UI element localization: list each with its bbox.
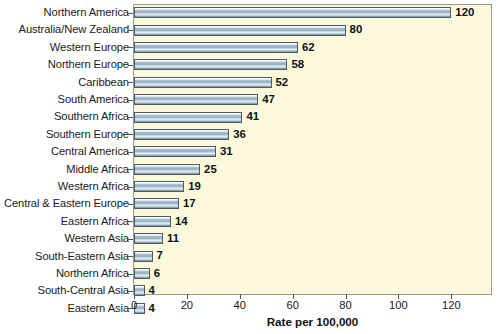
- bar: [134, 129, 229, 140]
- bar-value-label: 80: [350, 24, 363, 35]
- bar-and-value: 120: [134, 7, 474, 19]
- y-axis-tick: [128, 82, 133, 83]
- y-axis-tick: [128, 221, 133, 222]
- bar-row: Western Asia11: [0, 230, 504, 247]
- bar-chart: Northern America120Australia/New Zealand…: [0, 0, 504, 334]
- y-axis-tick: [128, 204, 133, 205]
- y-axis-tick: [128, 291, 133, 292]
- bar: [134, 198, 179, 209]
- bar-value-label: 62: [302, 42, 315, 53]
- bar: [134, 164, 200, 175]
- category-label: Western Asia: [0, 233, 129, 244]
- bar-value-label: 58: [291, 59, 304, 70]
- bar-row: Southern Africa41: [0, 108, 504, 125]
- y-axis-tick: [128, 47, 133, 48]
- bar-value-label: 36: [233, 129, 246, 140]
- bar: [134, 59, 287, 70]
- x-axis-tick-label: 40: [234, 300, 246, 311]
- bar: [134, 77, 272, 88]
- category-label: Southern Europe: [0, 129, 129, 140]
- bar-value-label: 11: [167, 233, 179, 244]
- category-label: South America: [0, 94, 129, 105]
- bar-value-label: 17: [183, 198, 196, 209]
- y-axis-tick: [128, 256, 133, 257]
- bar-value-label: 7: [157, 250, 163, 261]
- category-label: Northern Africa: [0, 268, 129, 279]
- bar: [134, 268, 150, 279]
- y-axis-tick: [128, 169, 133, 170]
- y-axis-tick: [128, 30, 133, 31]
- bar-row: Northern America120: [0, 4, 504, 21]
- bar: [134, 181, 184, 192]
- bar-and-value: 14: [134, 215, 188, 227]
- bar-and-value: 19: [134, 181, 201, 193]
- bar: [134, 25, 346, 36]
- category-label: Central & Eastern Europe: [0, 198, 129, 209]
- y-axis-tick: [128, 117, 133, 118]
- bar-row: Central America31: [0, 143, 504, 160]
- bar-and-value: 41: [134, 111, 259, 123]
- bar-value-label: 120: [455, 7, 474, 18]
- bar-and-value: 25: [134, 163, 217, 175]
- y-axis-tick: [128, 100, 133, 101]
- category-label: Central America: [0, 146, 129, 157]
- bar-value-label: 6: [154, 268, 160, 279]
- bar-value-label: 52: [276, 77, 289, 88]
- bar-and-value: 11: [134, 233, 179, 245]
- bar-row: South America47: [0, 91, 504, 108]
- y-axis-tick: [128, 187, 133, 188]
- bar-row: Southern Europe36: [0, 126, 504, 143]
- category-label: Northern America: [0, 7, 129, 18]
- bar-rows: Northern America120Australia/New Zealand…: [0, 4, 504, 295]
- y-axis-tick: [128, 152, 133, 153]
- bar-row: Australia/New Zealand80: [0, 21, 504, 38]
- y-axis-tick: [128, 65, 133, 66]
- x-axis-tick-label: 120: [442, 300, 461, 311]
- bar-and-value: 36: [134, 128, 246, 140]
- bar-and-value: 47: [134, 94, 275, 106]
- category-label: South-Central Asia: [0, 285, 129, 296]
- bar-value-label: 14: [175, 216, 188, 227]
- bar-and-value: 80: [134, 24, 362, 36]
- bar-value-label: 25: [204, 164, 217, 175]
- bar-value-label: 47: [262, 94, 275, 105]
- x-axis-tick-label: 100: [389, 300, 408, 311]
- x-axis-tick-label: 0: [131, 300, 137, 311]
- bar-row: Central & Eastern Europe17: [0, 195, 504, 212]
- x-axis-tick-label: 60: [286, 300, 298, 311]
- bar-row: Northern Africa6: [0, 265, 504, 282]
- x-axis-title: Rate per 100,000: [133, 316, 492, 328]
- category-label: Western Europe: [0, 42, 129, 53]
- bar-row: Northern Europe58: [0, 56, 504, 73]
- bar-row: Western Africa19: [0, 178, 504, 195]
- bar: [134, 216, 171, 227]
- y-axis-tick: [128, 13, 133, 14]
- bar: [134, 112, 242, 123]
- bar: [134, 251, 153, 262]
- x-axis: 020406080100120: [133, 294, 492, 334]
- bar-row: South-Eastern Asia7: [0, 247, 504, 264]
- bar-row: Eastern Africa14: [0, 213, 504, 230]
- category-label: Australia/New Zealand: [0, 24, 129, 35]
- y-axis-tick: [128, 134, 133, 135]
- bar-row: Western Europe62: [0, 39, 504, 56]
- category-label: South-Eastern Asia: [0, 251, 129, 262]
- bar-row: Caribbean52: [0, 74, 504, 91]
- bar: [134, 146, 216, 157]
- bar-value-label: 19: [188, 181, 201, 192]
- y-axis-tick: [128, 239, 133, 240]
- bar: [134, 42, 298, 53]
- bar-value-label: 41: [246, 111, 259, 122]
- bar-and-value: 58: [134, 59, 304, 71]
- bar: [134, 233, 163, 244]
- bar-row: Middle Africa25: [0, 161, 504, 178]
- bar-and-value: 17: [134, 198, 196, 210]
- bar-and-value: 62: [134, 41, 315, 53]
- bar-and-value: 7: [134, 250, 163, 262]
- x-axis-tick-label: 20: [181, 300, 193, 311]
- category-label: Northern Europe: [0, 59, 129, 70]
- category-label: Western Africa: [0, 181, 129, 192]
- bar-value-label: 31: [220, 146, 233, 157]
- bar-and-value: 6: [134, 268, 160, 280]
- category-label: Caribbean: [0, 77, 129, 88]
